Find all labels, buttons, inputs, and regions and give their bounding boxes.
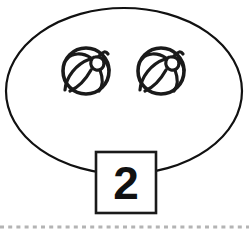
count-box-digit: 2 [113,157,139,209]
beach-ball-2 [138,48,184,94]
counting-card-canvas: 2 [0,0,249,234]
ellipse-grouping-ring [6,8,242,174]
count-box: 2 [96,152,156,213]
beach-ball-1 [63,48,109,94]
counting-card: 2 [0,0,249,234]
